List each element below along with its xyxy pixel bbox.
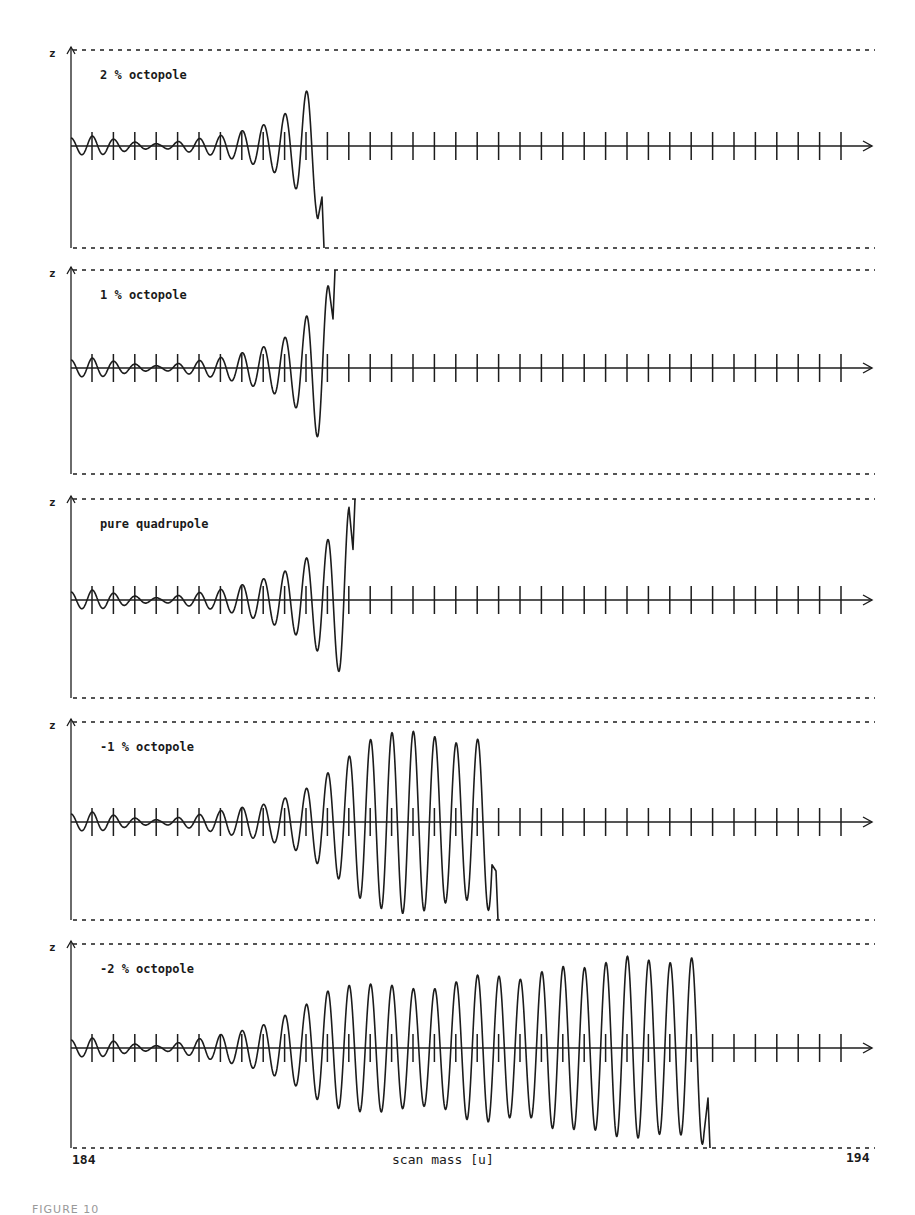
y-axis-label: z: [49, 47, 56, 60]
y-axis-label: z: [49, 267, 56, 280]
y-axis-label: z: [49, 719, 56, 732]
panel-2: [67, 267, 875, 474]
x-min-label: 184: [72, 1152, 95, 1167]
trajectory-line: [71, 956, 710, 1148]
panel-label: 2 % octopole: [100, 68, 187, 82]
panel-label: -2 % octopole: [100, 962, 194, 976]
trajectory-line: [71, 91, 324, 248]
y-axis-label: z: [49, 496, 56, 509]
panel-label: pure quadrupole: [100, 517, 208, 531]
x-axis-title: scan mass [u]: [392, 1152, 494, 1167]
y-axis-label: z: [49, 941, 56, 954]
x-max-label: 194: [846, 1150, 869, 1165]
panel-label: -1 % octopole: [100, 740, 194, 754]
panel-1: [67, 47, 875, 248]
figure-caption: FIGURE 10: [32, 1203, 99, 1215]
panel-label: 1 % octopole: [100, 288, 187, 302]
figure-canvas: [0, 0, 915, 1215]
